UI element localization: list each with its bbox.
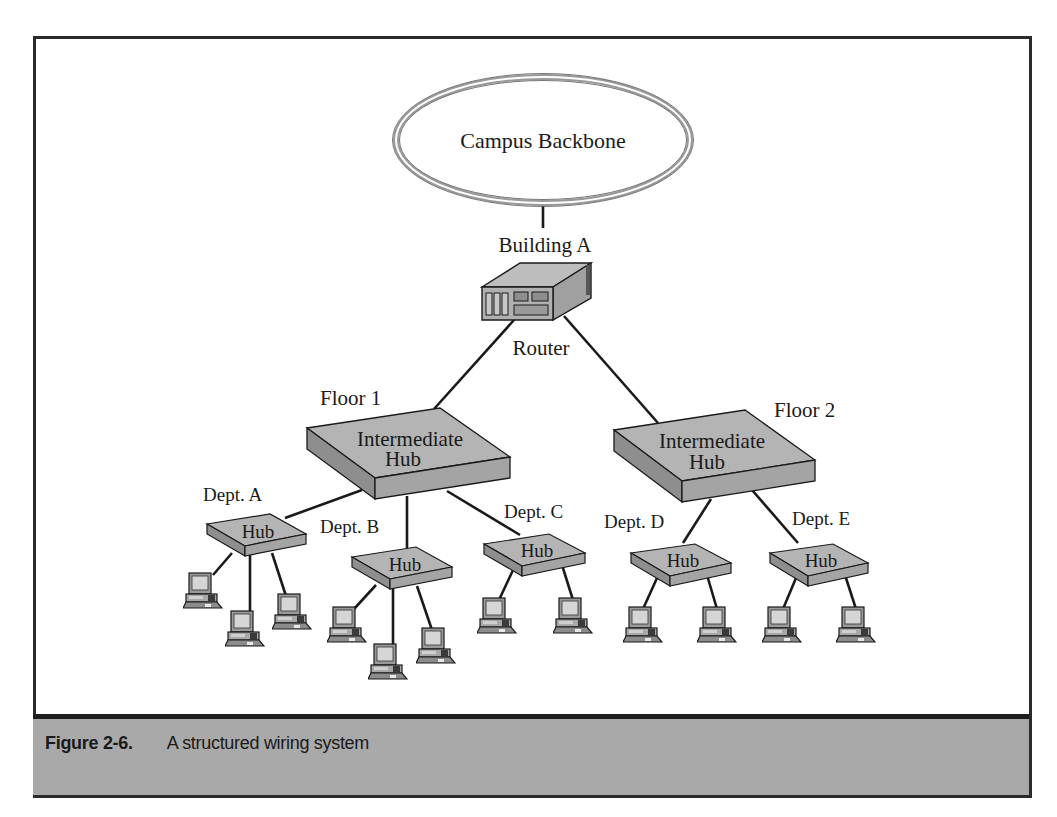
dept-a-hub-label: Hub — [242, 521, 275, 542]
computer-icon — [553, 598, 592, 633]
network-diagram: Campus Backbone Building A Router Floor … — [0, 0, 1057, 817]
dept-e-label: Dept. E — [792, 508, 850, 529]
computer-icon — [697, 607, 736, 642]
computer-icon — [272, 594, 311, 629]
floor-1-label: Floor 1 — [320, 386, 381, 410]
router-label: Router — [512, 336, 569, 360]
backbone-label: Campus Backbone — [460, 128, 626, 153]
dept-e-hub-label: Hub — [805, 550, 838, 571]
computer-icon — [623, 607, 662, 642]
building-label: Building A — [499, 233, 593, 257]
computer-icon — [836, 607, 875, 642]
caption-bar: Figure 2-6.A structured wiring system — [33, 714, 1029, 795]
dept-a-label: Dept. A — [203, 484, 262, 505]
dept-c-label: Dept. C — [504, 501, 563, 522]
computer-icon — [327, 607, 366, 642]
figure-number: Figure 2-6. — [45, 733, 133, 753]
computer-icon — [477, 598, 516, 633]
router-icon — [482, 263, 591, 320]
floor-2-hub-label-2: Hub — [689, 450, 725, 474]
dept-d-label: Dept. D — [604, 511, 664, 532]
dept-b-hub-label: Hub — [389, 554, 422, 575]
dept-c-hub-label: Hub — [521, 540, 554, 561]
computer-icon — [183, 573, 222, 608]
computer-icon — [225, 611, 264, 646]
dept-b-label: Dept. B — [320, 516, 379, 537]
computer-icon — [416, 628, 455, 663]
figure-caption: Figure 2-6.A structured wiring system — [45, 733, 369, 754]
floor-1-hub-label-2: Hub — [385, 447, 421, 471]
campus-backbone: Campus Backbone — [393, 74, 694, 207]
floor-2-label: Floor 2 — [774, 398, 835, 422]
computer-icon — [762, 607, 801, 642]
figure-title: A structured wiring system — [167, 733, 369, 753]
dept-d-hub-label: Hub — [667, 550, 700, 571]
computers — [183, 573, 875, 679]
computer-icon — [368, 644, 407, 679]
